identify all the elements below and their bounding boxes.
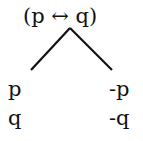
left-branch-line-2: q bbox=[8, 108, 21, 129]
right-branch-line-2: -q bbox=[109, 108, 130, 129]
left-branch-line-1: p bbox=[8, 79, 21, 100]
left-branch-edge bbox=[31, 28, 70, 70]
right-branch-edge bbox=[70, 28, 112, 70]
right-branch-line-1: -p bbox=[109, 79, 130, 100]
